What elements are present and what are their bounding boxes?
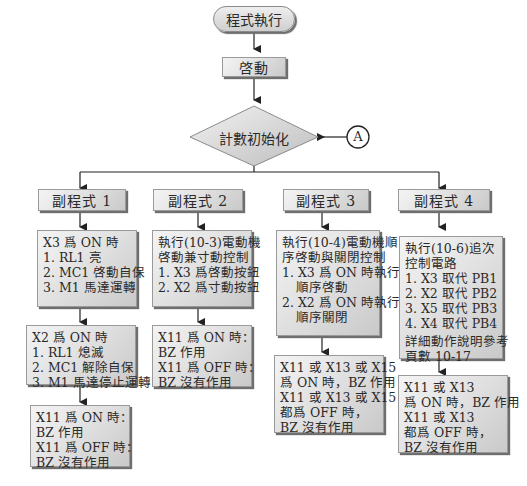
text-line: 3. X5 取代 PB3 <box>405 301 497 316</box>
text-line: 順序啓動 <box>282 280 374 295</box>
text-line: BZ 沒有作用 <box>404 440 502 455</box>
text-line: 1. X3 爲 ON 時執行 <box>282 265 374 280</box>
start-label: 程式執行 <box>226 9 282 29</box>
subroutine-2-block-1: 執行(10-3)電動機 啓動兼寸動控制 1. X3 爲啓動按鈕 2. X2 爲寸… <box>152 230 252 307</box>
text-line: 1. X3 取代 PB1 <box>405 271 497 286</box>
subroutine-2-title: 副程式 2 <box>153 189 243 211</box>
text-line: BZ 沒有作用 <box>158 375 246 390</box>
subroutine-4-label: 副程式 4 <box>414 190 474 210</box>
text-line: X11 爲 ON 時： <box>36 410 124 425</box>
text-line: 2. X2 爲寸動按鈕 <box>158 280 246 295</box>
text-line: 2. MC1 解除自保 <box>32 360 130 375</box>
subroutine-3-block-2: X11 或 X13 或 X15 爲 ON 時，BZ 作用 X11 或 X13 或… <box>274 355 384 433</box>
text-line: 執行(10-6)追次 <box>405 241 497 256</box>
subroutine-2-label: 副程式 2 <box>168 190 228 210</box>
text-line: BZ 沒有作用 <box>280 420 378 435</box>
text-line: 2. X2 取代 PB2 <box>405 286 497 301</box>
text-line: X11 爲 OFF 時： <box>158 360 246 375</box>
text-line: BZ 作用 <box>158 345 246 360</box>
text-line: X11 或 X13 或 X15 <box>280 360 378 375</box>
text-line: 爲 ON 時，BZ 作用 <box>404 395 502 410</box>
text-line: X3 爲 ON 時 <box>43 235 131 250</box>
text-line: 序啓動與關閉控制 <box>282 250 374 265</box>
text-line: 1. RL1 亮 <box>43 250 131 265</box>
subroutine-4-title: 副程式 4 <box>398 189 490 211</box>
text-line: 啓動兼寸動控制 <box>158 250 246 265</box>
connector-label: A <box>348 129 368 144</box>
text-line: X11 爲 ON 時： <box>158 330 246 345</box>
text-line: 控制電路 <box>405 256 497 271</box>
text-line: BZ 沒有作用 <box>36 455 124 470</box>
text-line: 2. X2 爲 ON 時執行 <box>282 295 374 310</box>
decision-label: 計數初始化 <box>204 128 304 148</box>
subroutine-4-block-2: X11 或 X13 爲 ON 時，BZ 作用 X11 或 X13 都爲 OFF … <box>398 375 508 453</box>
start-terminal: 程式執行 <box>213 6 295 32</box>
subroutine-1-block-2: X2 爲 ON 時 1. RL1 熄滅 2. MC1 解除自保 3. M1 馬達… <box>26 325 136 385</box>
text-line: 順序關閉 <box>282 310 374 325</box>
text-line: 4. X4 取代 PB4 <box>405 316 497 331</box>
subroutine-1-block-3: X11 爲 ON 時： BZ 作用 X11 爲 OFF 時： BZ 沒有作用 <box>30 405 130 467</box>
text-line: BZ 作用 <box>36 425 124 440</box>
text-line: 3. M1 馬達運轉 <box>43 280 131 295</box>
text-line: 頁數 10-17 <box>405 349 497 364</box>
subroutine-3-block-1: 執行(10-4)電動機順 序啓動與關閉控制 1. X3 爲 ON 時執行 順序啓… <box>276 230 380 336</box>
text-line: X2 爲 ON 時 <box>32 330 130 345</box>
subroutine-1-block-1: X3 爲 ON 時 1. RL1 亮 2. MC1 啓動自保 3. M1 馬達運… <box>37 230 137 307</box>
text-line: X11 或 X13 <box>404 380 502 395</box>
text-line: X11 或 X13 或 X15 <box>280 390 378 405</box>
text-line: 都爲 OFF 時， <box>280 405 378 420</box>
subroutine-1-title: 副程式 1 <box>38 189 126 211</box>
text-line: X11 或 X13 <box>404 410 502 425</box>
subroutine-3-label: 副程式 3 <box>296 190 356 210</box>
text-line: X11 爲 OFF 時： <box>36 440 124 455</box>
subroutine-3-title: 副程式 3 <box>283 189 369 211</box>
init-label: 啓動 <box>239 57 269 77</box>
text-line: 執行(10-4)電動機順 <box>282 235 374 250</box>
subroutine-4-block-1: 執行(10-6)追次 控制電路 1. X3 取代 PB1 2. X2 取代 PB… <box>399 236 503 359</box>
text-line: 2. MC1 啓動自保 <box>43 265 131 280</box>
init-process-box: 啓動 <box>222 57 286 77</box>
text-line: 都爲 OFF 時， <box>404 425 502 440</box>
text-line: 執行(10-3)電動機 <box>158 235 246 250</box>
text-line: 1. RL1 熄滅 <box>32 345 130 360</box>
text-line: 詳細動作說明參考 <box>405 334 497 349</box>
text-line: 3. M1 馬達停止運轉 <box>32 375 130 390</box>
text-line: 爲 ON 時，BZ 作用 <box>280 375 378 390</box>
subroutine-1-label: 副程式 1 <box>52 190 112 210</box>
subroutine-2-block-2: X11 爲 ON 時： BZ 作用 X11 爲 OFF 時： BZ 沒有作用 <box>152 325 252 387</box>
text-line: 1. X3 爲啓動按鈕 <box>158 265 246 280</box>
